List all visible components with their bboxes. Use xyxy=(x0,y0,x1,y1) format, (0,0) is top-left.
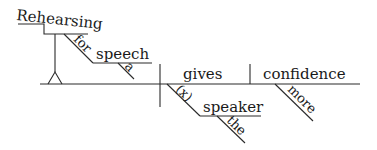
preposition-word: for xyxy=(71,32,95,56)
direct-object-word: confidence xyxy=(263,65,346,83)
implied-preposition-word: (x) xyxy=(173,82,196,105)
sentence-diagram: Rehearsing for speech a gives confidence… xyxy=(0,0,377,150)
svg-text:for: for xyxy=(71,32,95,56)
gerund-word: Rehearsing xyxy=(16,6,104,33)
svg-text:Rehearsing: Rehearsing xyxy=(16,6,104,33)
prep-object-word: speech xyxy=(96,45,149,63)
pedestal-foot xyxy=(48,72,62,84)
verb-word: gives xyxy=(183,65,222,83)
svg-text:(x): (x) xyxy=(173,82,196,105)
